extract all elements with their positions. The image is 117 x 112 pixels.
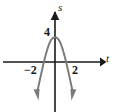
t-axis-label: t: [106, 52, 110, 64]
coordinate-plot: t s 4 −2 2: [0, 0, 117, 112]
tick-label-two: 2: [72, 63, 78, 77]
parabola-left-arrowhead-icon: [34, 89, 40, 101]
tick-label-neg-two: −2: [24, 63, 37, 77]
tick-label-four: 4: [44, 25, 50, 39]
s-axis-label: s: [58, 1, 62, 13]
parabola-right-arrowhead-icon: [70, 89, 76, 101]
parabola-figure: t s 4 −2 2: [0, 0, 117, 112]
